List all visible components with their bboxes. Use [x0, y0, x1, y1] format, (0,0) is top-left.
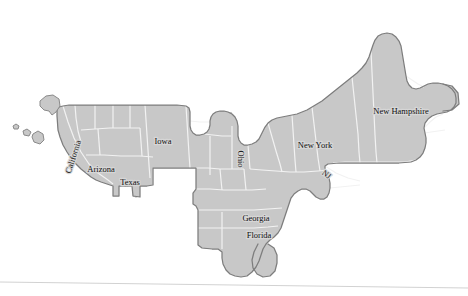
- border-ne-5: [425, 130, 445, 133]
- landmass-group: [57, 33, 459, 277]
- landmass-extension-south-central: [113, 186, 140, 197]
- state-label-florida: Florida: [247, 230, 272, 240]
- map-container: California Arizona Texas Iowa Ohio Georg…: [0, 0, 468, 296]
- state-label-arizona: Arizona: [87, 164, 115, 174]
- islands-group: [13, 95, 60, 144]
- state-label-iowa: Iowa: [155, 136, 172, 146]
- state-label-texas: Texas: [120, 177, 140, 187]
- state-label-new-york: New York: [298, 140, 333, 150]
- state-label-new-hampshire: New Hampshire: [373, 106, 429, 116]
- state-label-georgia: Georgia: [242, 213, 269, 223]
- baseline-rule: [0, 282, 468, 288]
- landmass-fill: [57, 33, 456, 277]
- island-mid: [32, 131, 44, 144]
- island-far-west-small: [13, 124, 19, 129]
- border-central-2: [190, 121, 210, 122]
- island-west-small: [23, 129, 31, 136]
- border-east-5: [330, 185, 360, 188]
- us-states-map[interactable]: California Arizona Texas Iowa Ohio Georg…: [0, 0, 468, 296]
- state-label-ohio: Ohio: [236, 151, 246, 168]
